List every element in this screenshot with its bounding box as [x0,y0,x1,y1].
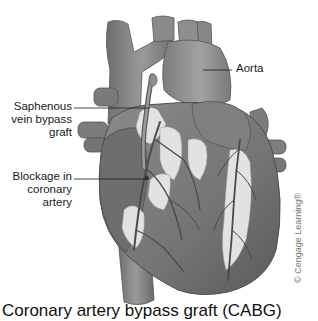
figure-caption: Coronary artery bypass graft (CABG) [2,301,282,321]
blockage-label: Blockage in coronary artery [6,170,72,209]
blockage-site [145,176,149,180]
aorta-label: Aorta [236,62,264,75]
copyright-credit: © Cengage Learning® [293,193,303,283]
saphenous-vein-graft-label: Saphenous vein bypass graft [6,100,72,139]
